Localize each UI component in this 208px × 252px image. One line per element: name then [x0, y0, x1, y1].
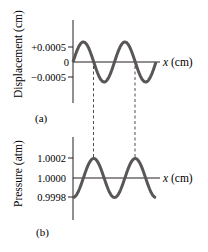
a-panel-label: (a)	[35, 112, 48, 125]
b-panel-label: (b)	[36, 226, 49, 239]
a-x-axis-label: x (cm)	[162, 56, 193, 69]
b-tick-label-high: 1.0002	[37, 153, 66, 164]
panel-b: 1.0002 1.0000 0.9998 x (cm) Pressure (at…	[12, 137, 193, 239]
figure: +0.0005 0 −0.0005 x (cm) Displacement (c…	[0, 0, 208, 252]
panel-a: +0.0005 0 −0.0005 x (cm) Displacement (c…	[12, 10, 193, 125]
b-y-axis-label: Pressure (atm)	[12, 140, 25, 207]
a-tick-label-zero: 0	[64, 57, 69, 68]
b-tick-label-mid: 1.0000	[37, 173, 66, 184]
b-x-axis-label: x (cm)	[162, 172, 193, 185]
a-tick-label-neg: −0.0005	[31, 72, 66, 83]
a-tick-label-pos: +0.0005	[31, 42, 66, 53]
b-tick-label-low: 0.9998	[37, 192, 66, 203]
a-y-axis-label: Displacement (cm)	[12, 10, 25, 98]
